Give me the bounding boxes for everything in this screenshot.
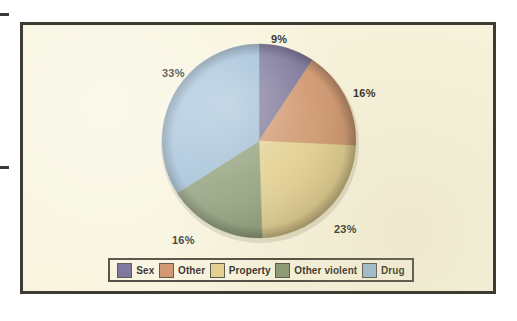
legend-item-other-violent[interactable]: Other violent	[275, 263, 357, 278]
legend-swatch-icon	[275, 263, 290, 278]
legend-swatch-icon	[210, 263, 225, 278]
legend-swatch-icon	[117, 263, 132, 278]
legend-label: Sex	[136, 265, 154, 276]
legend-swatch-icon	[159, 263, 174, 278]
pie-label-other-pct: 16%	[353, 87, 376, 99]
pie-rim-overlay	[162, 44, 356, 238]
pie-chart	[156, 37, 362, 245]
legend-item-drug[interactable]: Drug	[362, 263, 405, 278]
page-edge-artifact-middle	[0, 166, 9, 169]
legend-label: Property	[229, 265, 271, 276]
legend-label: Drug	[381, 265, 405, 276]
page-edge-artifact-top	[0, 13, 9, 16]
legend-swatch-icon	[362, 263, 377, 278]
figure-panel: 9% 16% 23% 16% 33% SexOtherPropertyOther…	[20, 22, 496, 294]
pie-chart-area: 9% 16% 23% 16% 33%	[23, 25, 493, 291]
pie-label-drug-pct: 33%	[162, 67, 185, 79]
pie-label-other-violent-pct: 16%	[172, 234, 195, 246]
legend-item-sex[interactable]: Sex	[117, 263, 154, 278]
chart-legend: SexOtherPropertyOther violentDrug	[108, 258, 414, 282]
pie-label-property-pct: 23%	[334, 223, 357, 235]
legend-item-property[interactable]: Property	[210, 263, 271, 278]
pie-label-sex-pct: 9%	[271, 33, 287, 45]
legend-item-other[interactable]: Other	[159, 263, 205, 278]
legend-label: Other violent	[294, 265, 357, 276]
legend-label: Other	[178, 265, 205, 276]
